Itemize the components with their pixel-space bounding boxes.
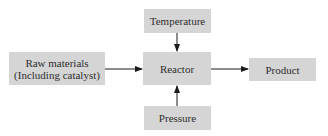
raw-materials-line1: Raw materials: [14, 57, 100, 69]
pressure-label: Pressure: [159, 112, 196, 124]
reactor-node: Reactor: [143, 52, 211, 85]
temperature-node: Temperature: [144, 9, 211, 33]
raw-materials-line2: (Including catalyst): [14, 69, 100, 81]
temperature-label: Temperature: [150, 15, 205, 27]
product-label: Product: [265, 64, 299, 76]
product-node: Product: [249, 58, 316, 81]
raw-materials-node: Raw materials (Including catalyst): [9, 52, 105, 85]
reactor-label: Reactor: [160, 63, 194, 75]
raw-materials-label: Raw materials (Including catalyst): [14, 57, 100, 81]
pressure-node: Pressure: [144, 106, 211, 130]
